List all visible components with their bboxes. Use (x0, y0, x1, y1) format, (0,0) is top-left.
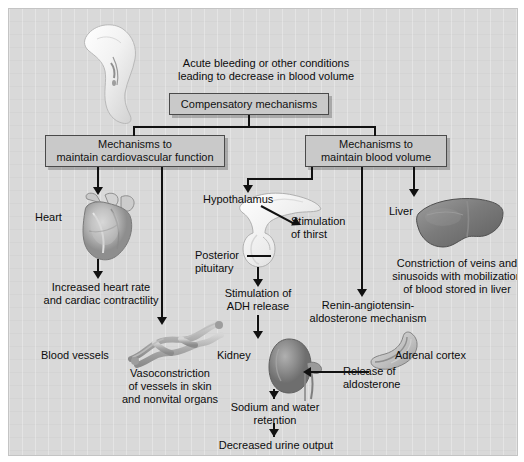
box-cardiovascular-mechanisms[interactable]: Mechanisms to maintain cardiovascular fu… (45, 135, 225, 167)
wounded-leg-illustration (67, 15, 175, 127)
connector-cardio-to-vessels (161, 167, 163, 319)
arrowhead-heart-to-effect (93, 271, 103, 279)
connector-to-cardiovascular (133, 126, 135, 136)
flowchart-figure: Acute bleeding or other conditions leadi… (8, 8, 518, 456)
arrowhead-cardio-to-heart (93, 187, 103, 195)
label-posterior-pituitary: Posterior pituitary (195, 249, 257, 275)
page-title: Acute bleeding or other conditions leadi… (161, 57, 371, 83)
leader-posterior-pituitary (247, 255, 271, 257)
label-heart-effect: Increased heart rate and cardiac contrac… (21, 281, 181, 307)
arrowhead-aldosterone-to-kidney (303, 367, 311, 377)
label-blood-vessels: Blood vessels (41, 349, 121, 362)
connector-bv-to-renin (361, 167, 363, 293)
label-kidney: Kidney (217, 349, 267, 362)
label-hypothalamus: Hypothalamus (203, 193, 287, 206)
arrowhead-cardio-to-vessels (157, 317, 167, 325)
arrowhead-adh-to-kidney (253, 331, 263, 339)
arrowhead-bv-to-hypothalamus (243, 185, 253, 193)
label-release-of-aldosterone: Release of aldosterone (343, 365, 419, 391)
box-blood-volume-mechanisms[interactable]: Mechanisms to maintain blood volume (305, 135, 447, 167)
arrowhead-bv-to-liver (409, 189, 419, 197)
arrowhead-sodium-to-urine (269, 429, 279, 437)
label-heart: Heart (35, 211, 81, 224)
label-adh-release: Stimulation of ADH release (205, 287, 311, 313)
box-compensatory-mechanisms[interactable]: Compensatory mechanisms (169, 93, 329, 115)
connector-cardio-to-heart (97, 167, 99, 189)
arrowhead-kidney-to-sodium (269, 391, 279, 399)
label-liver: Liver (389, 205, 429, 218)
connector-split-bus (133, 126, 376, 128)
label-decreased-urine-output: Decreased urine output (205, 439, 347, 452)
connector-bv-elbow-across (247, 178, 313, 180)
arrowhead-pituitary-to-adh (253, 279, 263, 287)
label-adrenal-cortex: Adrenal cortex (395, 349, 487, 362)
connector-aldosterone-lead (339, 371, 369, 373)
label-sodium-water-retention: Sodium and water retention (215, 401, 335, 427)
connector-aldosterone-to-kidney (309, 371, 341, 373)
connector-to-blood-volume (374, 126, 376, 136)
blood-vessels-illustration (125, 315, 225, 373)
label-liver-effect: Constriction of veins and sinusoids with… (387, 257, 518, 296)
arrowhead-bv-to-renin (357, 289, 367, 297)
label-renin-angiotensin: Renin-angiotensin- aldosterone mechanism (301, 299, 435, 325)
heart-illustration (71, 191, 143, 265)
